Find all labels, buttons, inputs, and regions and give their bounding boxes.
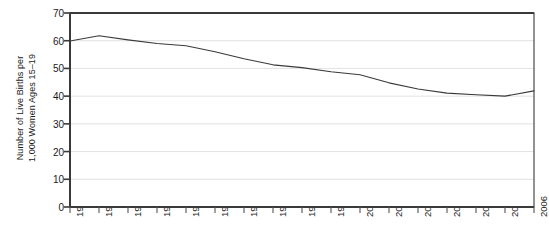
plot-background <box>70 13 534 207</box>
